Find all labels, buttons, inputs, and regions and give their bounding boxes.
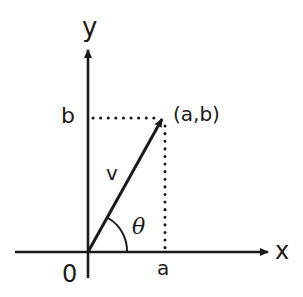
angle-label: θ xyxy=(132,216,145,238)
point-label: (a,b) xyxy=(173,104,220,124)
y-axis-label: y xyxy=(82,14,97,40)
x-axis-label: x xyxy=(275,239,289,263)
vector-label: v xyxy=(106,163,118,183)
a-tick-label: a xyxy=(157,258,169,278)
origin-label: 0 xyxy=(62,262,77,286)
b-tick-label: b xyxy=(61,105,75,127)
diagram-canvas xyxy=(0,0,303,297)
vector-v xyxy=(88,119,162,252)
angle-theta-arc xyxy=(108,218,127,252)
